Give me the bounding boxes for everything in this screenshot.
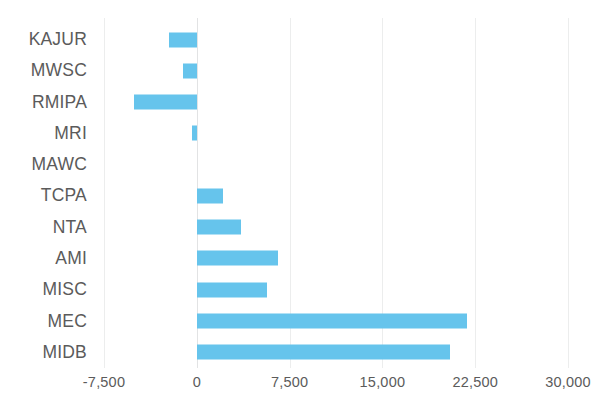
x-axis-tick-labels: -7,50007,50015,00022,50030,000 (0, 374, 600, 398)
category-label: NTA (0, 212, 96, 243)
bar[interactable] (169, 32, 197, 47)
category-label: KAJUR (0, 24, 96, 55)
bar-row (104, 87, 568, 118)
bar[interactable] (134, 95, 197, 110)
bar[interactable] (197, 188, 223, 203)
bar-row (104, 212, 568, 243)
bar-row (104, 180, 568, 211)
bar[interactable] (183, 63, 197, 78)
category-label: MEC (0, 305, 96, 336)
horizontal-bar-chart: KAJURMWSCRMIPAMRIMAWCTCPANTAAMIMISCMECMI… (0, 0, 600, 404)
bar-row (104, 305, 568, 336)
bar-row (104, 337, 568, 368)
x-tick-label: 0 (193, 374, 201, 390)
bar-row (104, 274, 568, 305)
bar[interactable] (197, 251, 278, 266)
x-tick-label: 15,000 (360, 374, 406, 390)
x-tick-label: -7,500 (83, 374, 125, 390)
category-label: MISC (0, 274, 96, 305)
x-tick-label: 30,000 (545, 374, 591, 390)
category-label: MRI (0, 118, 96, 149)
category-label: TCPA (0, 180, 96, 211)
category-label: RMIPA (0, 87, 96, 118)
category-label: MIDB (0, 337, 96, 368)
bar-row (104, 243, 568, 274)
bar[interactable] (197, 220, 241, 235)
y-axis-category-labels: KAJURMWSCRMIPAMRIMAWCTCPANTAAMIMISCMECMI… (0, 24, 96, 368)
bars-layer (104, 24, 568, 368)
bar[interactable] (192, 126, 196, 141)
gridline (568, 18, 569, 368)
bar[interactable] (197, 345, 451, 360)
plot-area (104, 18, 568, 368)
bar[interactable] (197, 282, 268, 297)
category-label: MWSC (0, 55, 96, 86)
x-tick-label: 22,500 (452, 374, 498, 390)
bar-row (104, 24, 568, 55)
bar-row (104, 118, 568, 149)
category-label: AMI (0, 243, 96, 274)
bar[interactable] (197, 314, 467, 329)
x-tick-label: 7,500 (271, 374, 308, 390)
bar-row (104, 55, 568, 86)
category-label: MAWC (0, 149, 96, 180)
bar-row (104, 149, 568, 180)
